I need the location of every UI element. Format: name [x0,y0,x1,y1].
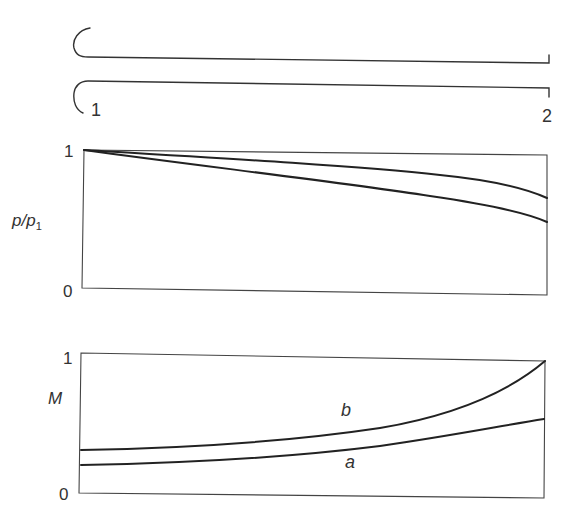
pressure-y-tick-1: 1 [64,142,73,161]
mach-curve-a [81,419,544,465]
figure-canvas: 1 2 1 0 p/p1 1 0 M b a [0,0,572,523]
curve-label-b: b [341,400,351,420]
mach-y-axis-label: M [48,389,63,408]
pipe-inlet-label: 1 [91,100,101,120]
pressure-curve-lower [84,150,547,222]
pressure-curve-upper [84,150,547,198]
pipe-upper-wall [74,28,549,63]
mach-y-tick-0: 0 [59,485,68,504]
mach-y-tick-1: 1 [63,349,72,368]
pressure-y-axis-label: p/p1 [11,211,42,232]
pressure-y-tick-0: 0 [63,282,72,301]
pressure-chart-frame [82,150,547,295]
pipe-diagram: 1 2 [74,28,552,126]
pipe-lower-wall [74,81,549,113]
fanno-flow-figure: 1 2 1 0 p/p1 1 0 M b a [0,0,572,523]
curve-label-a: a [345,452,355,472]
pipe-outlet-label: 2 [542,106,552,126]
mach-number-chart: 1 0 M b a [48,349,545,504]
pressure-ratio-chart: 1 0 p/p1 [11,142,547,301]
mach-chart-frame [79,353,545,498]
mach-curve-b [81,361,545,450]
